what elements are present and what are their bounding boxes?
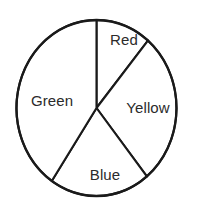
pie-chart-svg: RedYellowBlueGreen [0, 0, 197, 212]
pie-slice-label-blue: Blue [90, 166, 120, 183]
pie-slice-label-yellow: Yellow [126, 99, 169, 116]
pie-chart-container: RedYellowBlueGreen [0, 0, 197, 212]
pie-slice-label-green: Green [31, 92, 73, 109]
pie-slice-label-red: Red [110, 31, 138, 48]
